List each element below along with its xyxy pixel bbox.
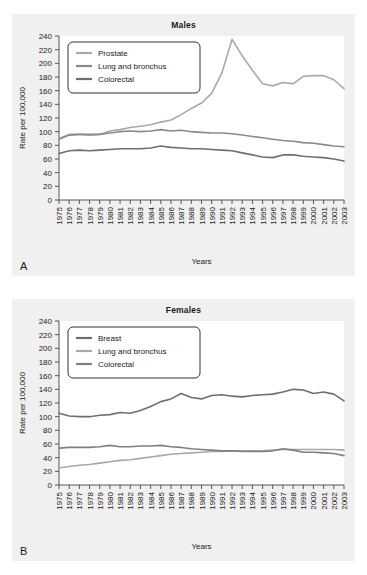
x-tick-label: 2003 [340, 206, 349, 224]
x-tick-label: 2001 [320, 491, 329, 509]
x-tick-label: 1992 [228, 206, 237, 224]
y-tick-label: 180 [39, 73, 53, 82]
y-tick-label: 80 [43, 426, 52, 435]
x-tick-label: 1975 [55, 206, 64, 224]
y-tick-label: 20 [43, 467, 52, 476]
y-axis: 020406080100120140160180200220240 [39, 317, 59, 490]
x-tick-label: 1990 [208, 206, 217, 224]
x-tick-label: 1986 [167, 491, 176, 509]
chart-panel-males: Males A 02040608010012014016018020022024… [12, 14, 355, 276]
y-tick-label: 20 [43, 182, 52, 191]
x-tick-label: 1984 [147, 491, 156, 509]
x-tick-label: 2002 [330, 206, 339, 224]
y-tick-label: 140 [39, 385, 53, 394]
y-tick-label: 100 [39, 413, 53, 422]
x-axis: 1975197619771978197919801981198219831984… [55, 485, 349, 510]
y-tick-label: 220 [39, 46, 53, 55]
x-tick-label: 1979 [96, 491, 105, 509]
x-axis: 1975197619771978197919801981198219831984… [55, 200, 349, 225]
figure-page: Males A 02040608010012014016018020022024… [0, 0, 367, 575]
x-tick-label: 1977 [75, 206, 84, 224]
x-tick-label: 1977 [75, 491, 84, 509]
legend: ProstateLung and bronchusColorectal [68, 42, 200, 93]
legend-label-colorectal: Colorectal [98, 360, 134, 369]
x-axis-title: Years [191, 257, 211, 266]
legend-label-breast: Breast [98, 334, 122, 343]
x-tick-label: 1992 [228, 491, 237, 509]
panel-title-males: Males [12, 20, 355, 30]
x-tick-label: 1988 [187, 491, 196, 509]
x-tick-label: 1997 [279, 491, 288, 509]
y-axis-title: Rate per 100,000 [18, 372, 27, 434]
x-tick-label: 1980 [106, 206, 115, 224]
y-tick-label: 240 [39, 32, 53, 41]
x-tick-label: 1980 [106, 491, 115, 509]
y-tick-label: 200 [39, 59, 53, 68]
x-tick-label: 1982 [126, 206, 135, 224]
x-tick-label: 1978 [86, 206, 95, 224]
y-tick-label: 140 [39, 100, 53, 109]
y-tick-label: 220 [39, 331, 53, 340]
legend-label-lung-and-bronchus: Lung and bronchus [98, 347, 167, 356]
x-tick-label: 1993 [238, 206, 247, 224]
y-tick-label: 160 [39, 372, 53, 381]
x-tick-label: 1997 [279, 206, 288, 224]
x-tick-label: 1994 [248, 206, 257, 224]
x-tick-label: 2002 [330, 491, 339, 509]
x-tick-label: 1975 [55, 491, 64, 509]
x-tick-label: 1985 [157, 491, 166, 509]
y-tick-label: 40 [43, 454, 52, 463]
x-tick-label: 1998 [289, 206, 298, 224]
x-tick-label: 1993 [238, 491, 247, 509]
x-tick-label: 2000 [309, 206, 318, 224]
x-tick-label: 1991 [218, 491, 227, 509]
y-tick-label: 40 [43, 169, 52, 178]
legend-label-colorectal: Colorectal [98, 75, 134, 84]
y-tick-label: 60 [43, 440, 52, 449]
y-tick-label: 100 [39, 128, 53, 137]
x-tick-label: 1989 [198, 491, 207, 509]
x-tick-label: 1986 [167, 206, 176, 224]
y-tick-label: 120 [39, 399, 53, 408]
x-axis-title: Years [191, 542, 211, 551]
x-tick-label: 1987 [177, 491, 186, 509]
y-axis: 020406080100120140160180200220240 [39, 32, 59, 205]
y-axis-title: Rate per 100,000 [18, 87, 27, 149]
chart-panel-females: Females B 020406080100120140160180200220… [12, 299, 355, 561]
x-tick-label: 1985 [157, 206, 166, 224]
x-tick-label: 2001 [320, 206, 329, 224]
x-tick-label: 1976 [65, 491, 74, 509]
y-tick-label: 180 [39, 358, 53, 367]
x-tick-label: 1984 [147, 206, 156, 224]
x-tick-label: 1999 [299, 206, 308, 224]
x-tick-label: 1990 [208, 491, 217, 509]
legend: BreastLung and bronchusColorectal [68, 327, 200, 378]
x-tick-label: 1999 [299, 491, 308, 509]
x-tick-label: 1996 [269, 491, 278, 509]
x-tick-label: 1988 [187, 206, 196, 224]
x-tick-label: 1982 [126, 491, 135, 509]
x-tick-label: 1995 [259, 206, 268, 224]
x-tick-label: 1994 [248, 491, 257, 509]
x-tick-label: 1979 [96, 206, 105, 224]
x-tick-label: 2003 [340, 491, 349, 509]
x-tick-label: 1989 [198, 206, 207, 224]
y-tick-label: 120 [39, 114, 53, 123]
y-tick-label: 60 [43, 155, 52, 164]
y-tick-label: 240 [39, 317, 53, 326]
line-chart-males: 020406080100120140160180200220240Rate pe… [12, 30, 355, 276]
x-tick-label: 1976 [65, 206, 74, 224]
x-tick-label: 1995 [259, 491, 268, 509]
line-chart-females: 020406080100120140160180200220240Rate pe… [12, 315, 355, 561]
legend-label-lung-and-bronchus: Lung and bronchus [98, 62, 167, 71]
y-tick-label: 0 [48, 196, 53, 205]
x-tick-label: 1978 [86, 491, 95, 509]
x-tick-label: 1996 [269, 206, 278, 224]
x-tick-label: 1983 [136, 491, 145, 509]
y-tick-label: 80 [43, 141, 52, 150]
x-tick-label: 1981 [116, 491, 125, 509]
x-tick-label: 1987 [177, 206, 186, 224]
x-tick-label: 1998 [289, 491, 298, 509]
x-tick-label: 1983 [136, 206, 145, 224]
y-tick-label: 0 [48, 481, 53, 490]
